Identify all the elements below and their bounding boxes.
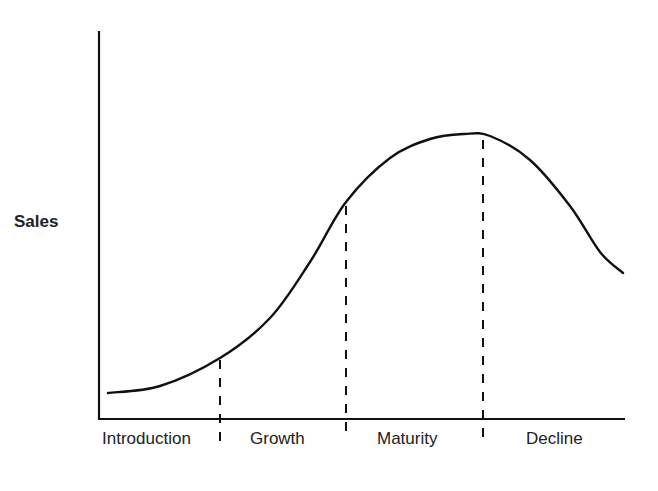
sales-curve xyxy=(108,133,623,393)
stage-label-introduction: Introduction xyxy=(102,429,191,449)
product-life-cycle-chart xyxy=(0,0,658,491)
stage-label-growth: Growth xyxy=(250,429,305,449)
y-axis-label: Sales xyxy=(14,212,58,232)
stage-label-maturity: Maturity xyxy=(377,429,437,449)
stage-label-decline: Decline xyxy=(526,429,583,449)
